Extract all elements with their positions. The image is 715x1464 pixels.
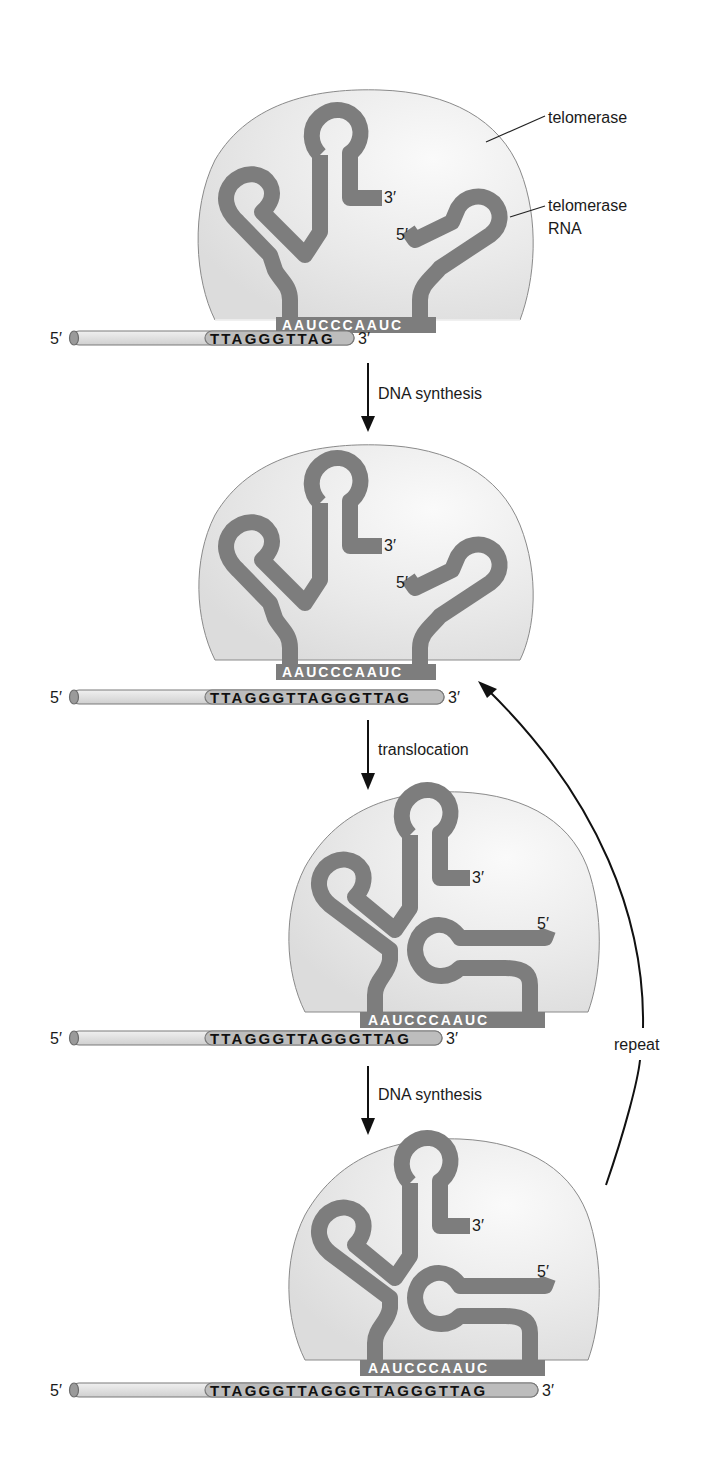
telomerase-rna-label-line2: RNA xyxy=(548,220,582,237)
dna-3prime-label: 3′ xyxy=(446,1030,458,1047)
rna-3prime-label: 3′ xyxy=(384,537,396,554)
dna-5prime-label: 5′ xyxy=(50,330,62,347)
dna-3prime-label: 3′ xyxy=(542,1382,554,1399)
rna-template-sequence: AAUCCCAAUC xyxy=(282,664,403,680)
rna-template-sequence: AAUCCCAAUC xyxy=(368,1360,489,1376)
rna-5prime-label: 5′ xyxy=(396,226,408,243)
step-arrow-2: translocation xyxy=(361,720,469,790)
repeat-label: repeat xyxy=(614,1036,660,1053)
rna-3prime-label: 3′ xyxy=(472,1217,484,1234)
panel-3: AAUCCCAAUC 3′ 5′ TTAGGGTTAGGGTTAG 5′ 3′ xyxy=(50,790,599,1047)
panel-2: AAUCCCAAUC 3′ 5′ TTAGGGTTAGGGTTAG 5′ 3′ xyxy=(50,445,533,706)
rna-5prime-label: 5′ xyxy=(537,1263,549,1280)
telomerase-label: telomerase xyxy=(548,109,627,126)
step-label-dna-synthesis-1: DNA synthesis xyxy=(378,385,482,402)
step-arrow-3: DNA synthesis xyxy=(361,1066,482,1135)
dna-sequence: TTAGGGTTAGGGTTAGGGTTAG xyxy=(210,1382,487,1399)
rna-5prime-label: 5′ xyxy=(537,915,549,932)
panel-4: AAUCCCAAUC 3′ 5′ TTAGGGTTAGGGTTAGGGTTAG … xyxy=(50,1138,599,1399)
dna-3prime-label: 3′ xyxy=(448,689,460,706)
arrow-down-icon xyxy=(361,416,375,432)
rna-3prime-label: 3′ xyxy=(472,869,484,886)
rna-5prime-label: 5′ xyxy=(396,574,408,591)
telomerase-rna-label: telomerase xyxy=(548,197,627,214)
step-label-translocation: translocation xyxy=(378,741,469,758)
dna-5prime-label: 5′ xyxy=(50,1030,62,1047)
rna-template-sequence: AAUCCCAAUC xyxy=(368,1012,489,1028)
arrow-down-icon xyxy=(361,773,375,790)
dna-sequence: TTAGGGTTAGGGTTAG xyxy=(210,1030,411,1047)
panel-1: AAUCCCAAUC 3′ 5′ TTAGGGTTAG 5′ 3′ telome… xyxy=(50,90,627,347)
step-label-dna-synthesis-2: DNA synthesis xyxy=(378,1086,482,1103)
rna-3prime-label: 3′ xyxy=(384,189,396,206)
arrow-down-icon xyxy=(361,1118,375,1135)
dna-sequence: TTAGGGTTAGGGTTAG xyxy=(210,689,411,706)
telomerase-leader-line xyxy=(486,116,545,142)
step-arrow-1: DNA synthesis xyxy=(361,363,482,432)
dna-3prime-label: 3′ xyxy=(358,330,370,347)
dna-5prime-label: 5′ xyxy=(50,689,62,706)
dna-sequence: TTAGGGTTAG xyxy=(210,330,335,347)
dna-5prime-label: 5′ xyxy=(50,1382,62,1399)
telomerase-diagram: AAUCCCAAUC 3′ 5′ TTAGGGTTAG 5′ 3′ telome… xyxy=(0,0,715,1464)
